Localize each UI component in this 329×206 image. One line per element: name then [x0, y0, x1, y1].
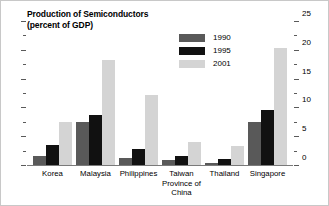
axis-tick-minor — [294, 64, 297, 65]
axis-tick-major — [294, 21, 299, 22]
legend-label: 1995 — [213, 47, 231, 55]
category-label-line: Malaysia — [76, 169, 115, 179]
bar — [188, 142, 201, 165]
legend-swatch — [179, 47, 205, 55]
category-label-line: Province of — [162, 179, 201, 189]
right-axis: 0510152025 — [294, 21, 329, 166]
category-label: Philippines — [119, 169, 158, 198]
axis-tick-minor — [23, 35, 26, 36]
axis-tick-minor — [23, 122, 26, 123]
y-axis-tick-label: 15 — [302, 68, 311, 76]
chart-legend: 199019952001 — [179, 32, 231, 71]
plot-area — [27, 21, 293, 166]
axis-tick-major — [294, 136, 299, 137]
chart-figure: Production of Semiconductors (percent of… — [0, 0, 329, 206]
axis-tick-minor — [294, 93, 297, 94]
category-label-line: Singapore — [248, 169, 287, 179]
bar — [175, 156, 188, 165]
category-label-line: Taiwan — [162, 169, 201, 179]
y-axis-tick-label: 20 — [302, 39, 311, 47]
axis-tick-minor — [23, 151, 26, 152]
axis-tick-major — [294, 107, 299, 108]
legend-swatch — [179, 34, 205, 42]
left-axis — [15, 21, 26, 166]
category-label: Thailand — [205, 169, 244, 198]
legend-label: 1990 — [213, 34, 231, 42]
legend-item: 2001 — [179, 58, 231, 70]
axis-tick-major — [21, 50, 26, 51]
bar — [89, 115, 102, 165]
y-axis-tick-label: 25 — [302, 10, 311, 18]
axis-tick-minor — [294, 122, 297, 123]
category-label-line: China — [162, 188, 201, 198]
bar — [102, 60, 115, 165]
category-label-line: Philippines — [119, 169, 158, 179]
y-axis-tick-label: 10 — [302, 96, 311, 104]
axis-tick-minor — [23, 64, 26, 65]
bar — [76, 122, 89, 165]
category-labels: KoreaMalaysiaPhilippinesTaiwanProvince o… — [27, 169, 293, 198]
category-label: Korea — [33, 169, 72, 198]
bar — [119, 158, 132, 165]
category-label-line: Thailand — [205, 169, 244, 179]
category-label: Malaysia — [76, 169, 115, 198]
category-label-line: Korea — [33, 169, 72, 179]
axis-baseline — [27, 165, 293, 166]
bar-group — [248, 21, 287, 165]
bar — [33, 156, 46, 165]
bar — [231, 146, 244, 165]
axis-tick-minor — [294, 35, 297, 36]
y-axis-tick-label: 0 — [302, 154, 306, 162]
axis-tick-minor — [294, 151, 297, 152]
category-label: TaiwanProvince ofChina — [162, 169, 201, 198]
bar — [59, 122, 72, 165]
axis-tick-major — [294, 165, 299, 166]
axis-tick-major — [294, 50, 299, 51]
bar-group — [76, 21, 115, 165]
axis-tick-major — [21, 79, 26, 80]
chart-title: Production of Semiconductors — [27, 9, 148, 20]
y-axis-tick-label: 5 — [302, 125, 306, 133]
legend-label: 2001 — [213, 60, 231, 68]
axis-tick-minor — [23, 93, 26, 94]
axis-tick-major — [294, 79, 299, 80]
bar — [261, 110, 274, 165]
axis-tick-major — [21, 21, 26, 22]
bar — [46, 145, 59, 165]
bar-group — [33, 21, 72, 165]
legend-item: 1990 — [179, 32, 231, 44]
bar — [132, 149, 145, 165]
bar — [145, 95, 158, 165]
axis-tick-major — [21, 107, 26, 108]
bar — [274, 48, 287, 166]
axis-tick-major — [21, 136, 26, 137]
legend-item: 1995 — [179, 45, 231, 57]
bar-groups — [27, 21, 293, 165]
category-label: Singapore — [248, 169, 287, 198]
bar-group — [119, 21, 158, 165]
bar — [248, 122, 261, 165]
legend-swatch — [179, 60, 205, 68]
axis-tick-major — [21, 165, 26, 166]
